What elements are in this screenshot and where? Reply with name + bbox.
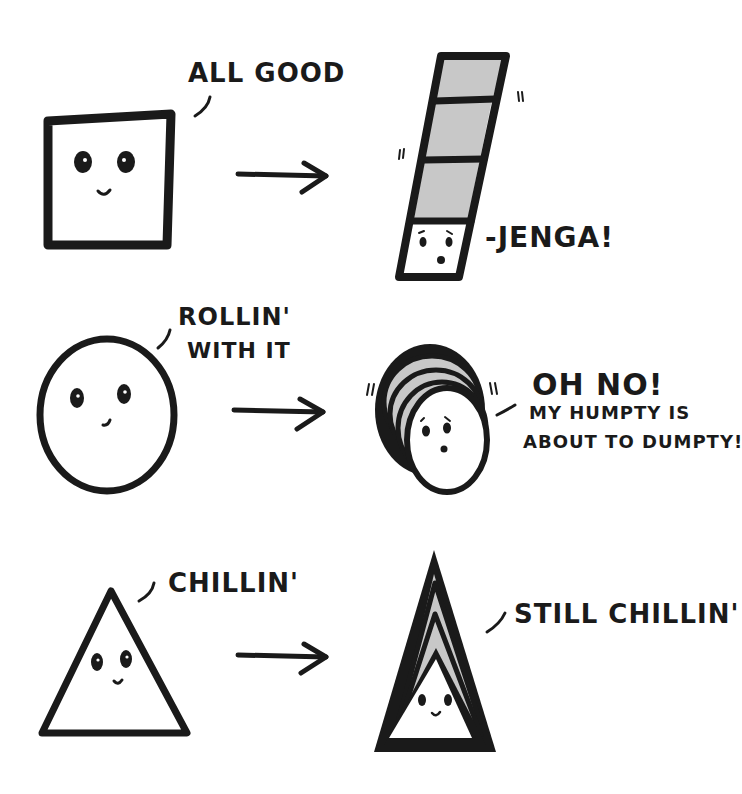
wobbly-circle-stack — [367, 344, 497, 492]
happy-circle — [40, 339, 174, 491]
happy-square — [48, 114, 171, 245]
speech-tick-icon — [497, 405, 515, 415]
label-all-good: ALL GOOD — [188, 58, 345, 88]
speech-tick-icon — [139, 583, 154, 601]
label-about-to-dumpty: ABOUT TO DUMPTY! — [523, 431, 742, 452]
row-square: ALL GOOD -JENGA! — [48, 56, 614, 277]
right-arrow-icon — [238, 163, 326, 192]
speech-tick-icon — [487, 613, 505, 632]
eye-left-icon — [74, 151, 92, 173]
right-arrow-icon — [238, 644, 326, 673]
label-my-humpty: MY HUMPTY IS — [529, 402, 690, 423]
row-circle: ROLLIN' WITH IT OH NO! MY HUMPTY IS ABOU… — [40, 303, 742, 492]
happy-triangle — [42, 591, 187, 733]
right-arrow-icon — [234, 399, 323, 429]
label-oh-no: OH NO! — [532, 367, 663, 402]
label-rollin: ROLLIN' — [178, 303, 291, 331]
label-jenga: -JENGA! — [485, 221, 614, 254]
stacked-triangle — [374, 550, 496, 752]
label-still-chillin: STILL CHILLIN' — [514, 599, 739, 629]
eye-right-icon — [117, 151, 135, 173]
row-triangle: CHILLIN' STILL CHILLIN' — [42, 550, 739, 752]
wobble-mark-icon — [399, 149, 404, 159]
speech-tick-icon — [158, 330, 170, 348]
smile-icon — [98, 190, 110, 194]
shapes-illustration: ALL GOOD -JENGA! — [0, 0, 742, 794]
wobble-mark-icon — [367, 384, 374, 395]
speech-tick-icon — [195, 97, 210, 116]
label-chillin: CHILLIN' — [168, 568, 299, 598]
label-with-it: WITH IT — [187, 338, 291, 363]
wobble-mark-icon — [518, 92, 523, 101]
wobble-mark-icon — [490, 383, 497, 394]
